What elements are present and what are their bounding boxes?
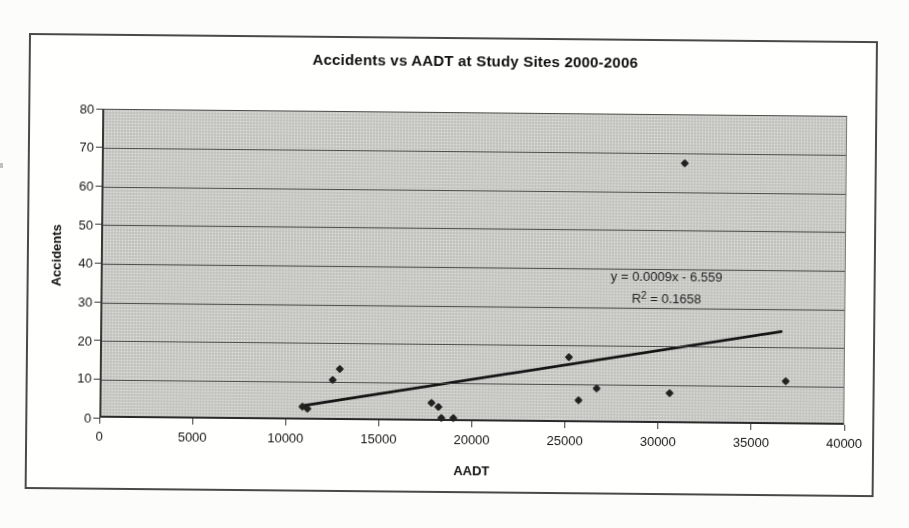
y-tick-label: 0: [84, 410, 91, 425]
scan-artifact: [0, 163, 3, 168]
x-tick-label: 15000: [360, 431, 396, 446]
trendline: [101, 110, 846, 423]
x-tick-label: 10000: [267, 430, 303, 445]
y-tick-label: 10: [77, 371, 92, 386]
y-tick-mark: [94, 340, 100, 341]
y-tick-label: 50: [79, 217, 94, 232]
trendline-equation: y = 0.0009x - 6.559 R2 = 0.1658: [610, 267, 722, 309]
chart-frame: Accidents vs AADT at Study Sites 2000-20…: [25, 33, 878, 497]
x-tick-label: 30000: [640, 434, 676, 449]
x-tick-label: 40000: [826, 436, 862, 451]
x-tick-mark: [285, 419, 286, 425]
x-tick-label: 0: [95, 429, 102, 444]
y-tick-label: 30: [78, 294, 93, 309]
x-tick-label: 35000: [733, 435, 769, 450]
scanned-page: Accidents vs AADT at Study Sites 2000-20…: [0, 0, 909, 528]
y-tick-mark: [94, 379, 100, 380]
x-tick-mark: [378, 420, 379, 426]
y-tick-label: 70: [79, 140, 94, 155]
x-tick-label: 25000: [547, 433, 583, 448]
x-tick-mark: [471, 421, 472, 427]
x-tick-label: 5000: [178, 429, 207, 444]
y-tick-label: 20: [78, 333, 93, 348]
x-tick-mark: [751, 424, 752, 430]
y-tick-mark: [95, 224, 101, 225]
y-tick-mark: [96, 185, 102, 186]
y-tick-label: 40: [78, 255, 93, 270]
plot-area: y = 0.0009x - 6.559 R2 = 0.1658: [99, 109, 847, 425]
x-tick-mark: [192, 419, 193, 425]
x-tick-mark: [657, 423, 658, 429]
x-tick-mark: [99, 418, 100, 424]
y-axis-tick-labels: 01020304050607080: [27, 108, 94, 418]
x-tick-label: 20000: [453, 432, 489, 447]
y-tick-label: 80: [80, 101, 95, 116]
x-tick-mark: [564, 422, 565, 428]
chart-title: Accidents vs AADT at Study Sites 2000-20…: [103, 49, 848, 73]
r-squared-line: R2 = 0.1658: [610, 286, 722, 309]
y-tick-mark: [96, 108, 102, 109]
y-tick-mark: [94, 301, 100, 302]
y-tick-label: 60: [79, 178, 94, 193]
y-tick-mark: [95, 263, 101, 264]
y-tick-mark: [96, 147, 102, 148]
x-tick-mark: [844, 425, 845, 431]
